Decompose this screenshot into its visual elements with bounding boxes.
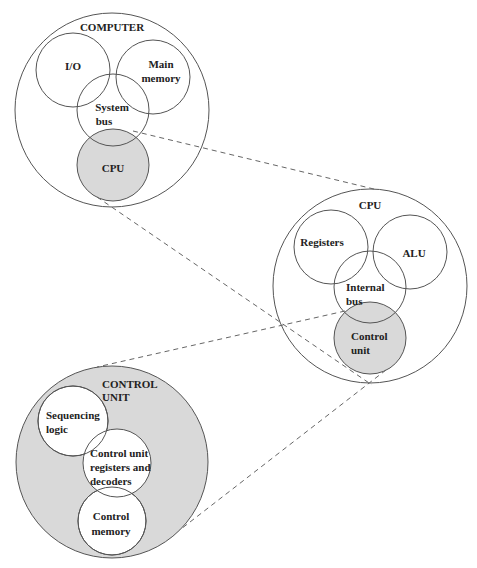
sequencing-logic-label-line1: Sequencing — [46, 409, 100, 422]
io-label: I/O — [65, 60, 81, 73]
main-memory-label-line1: Main — [148, 58, 173, 71]
cu-registers-label-line2: registers and — [90, 461, 151, 474]
cu-registers-label-line3: decoders — [90, 475, 132, 488]
control-unit-label-line2: unit — [351, 344, 370, 357]
control-unit-label-line1: Control — [351, 330, 387, 343]
internal-bus-label-line2: bus — [346, 295, 363, 308]
diagram-canvas — [0, 0, 477, 568]
cpu-title: CPU — [359, 199, 382, 212]
main-memory-label-line2: memory — [141, 72, 180, 85]
internal-bus-label-line1: Internal — [346, 281, 385, 294]
control-unit-title-line1: CONTROL — [102, 378, 158, 391]
control-memory-label-line1: Control — [93, 510, 129, 523]
control-memory-label-line2: memory — [91, 525, 130, 538]
computer-title: COMPUTER — [80, 21, 144, 34]
sequencing-logic-label-line2: logic — [46, 423, 68, 436]
alu-label: ALU — [402, 247, 425, 260]
cpu-small-label: CPU — [102, 162, 125, 175]
system-bus-label-line2: bus — [96, 115, 113, 128]
registers-label: Registers — [300, 236, 343, 249]
cu-registers-label-line1: Control unit — [90, 447, 148, 460]
zoom-line-cu-bottom — [181, 370, 386, 529]
control-unit-title-line2: UNIT — [102, 391, 130, 404]
system-bus-label-line1: System — [95, 101, 129, 114]
